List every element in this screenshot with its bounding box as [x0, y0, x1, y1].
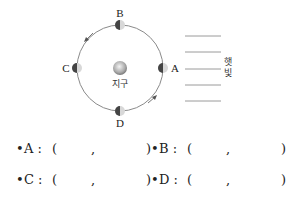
orbit-arrow-top-left — [84, 33, 93, 42]
answer-A: • A : ( , ) — [16, 141, 151, 156]
moon-label-C: C — [62, 62, 69, 74]
sunlight-rays — [185, 36, 221, 101]
sunlight-label-1: 햇 — [224, 56, 232, 67]
bullet: • — [16, 172, 24, 187]
answer-row-2: • C : ( , ) • D : ( , ) — [16, 172, 286, 187]
answer-B: • B : ( , ) — [151, 141, 286, 156]
moon-phase-diagram: 지구 B C A D 햇 빛 — [0, 0, 292, 135]
answer-C: • C : ( , ) — [16, 172, 151, 187]
answer-label: C : — [24, 172, 52, 187]
sunlight-label-2: 빛 — [224, 68, 232, 78]
bullet: • — [151, 141, 159, 156]
answer-label: A : — [24, 141, 52, 156]
moon-label-B: B — [116, 7, 123, 19]
moon-label-A: A — [171, 62, 179, 74]
moon-A: A — [158, 62, 179, 74]
bullet: • — [16, 141, 24, 156]
answer-D: • D : ( , ) — [151, 172, 286, 187]
answer-blank-2[interactable]: ) — [230, 172, 286, 187]
answer-blank-1[interactable]: , — [57, 172, 95, 187]
answer-label: B : — [159, 141, 187, 156]
earth-icon — [113, 61, 127, 75]
answer-row-1: • A : ( , ) • B : ( , ) — [16, 141, 286, 156]
answer-label: D : — [159, 172, 187, 187]
answer-blank-1[interactable]: , — [57, 141, 95, 156]
moon-label-D: D — [116, 117, 124, 129]
answer-blank-2[interactable]: ) — [230, 141, 286, 156]
answer-blank-1[interactable]: , — [192, 172, 230, 187]
earth-label: 지구 — [112, 79, 128, 89]
moon-B: B — [115, 7, 125, 30]
moon-C: C — [62, 62, 82, 74]
answer-blank-2[interactable]: ) — [95, 141, 151, 156]
moon-D: D — [115, 106, 125, 129]
answer-blank-1[interactable]: , — [192, 141, 230, 156]
answer-blank-2[interactable]: ) — [95, 172, 151, 187]
bullet: • — [151, 172, 159, 187]
